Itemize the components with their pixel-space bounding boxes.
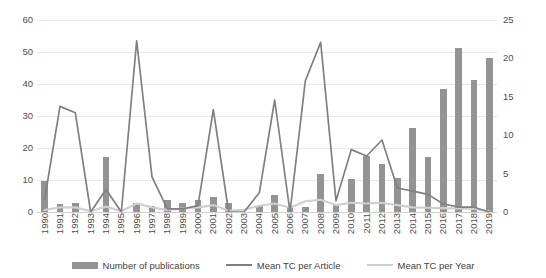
line-mean-tc-per-year <box>45 200 490 212</box>
legend-item-mean-tc-per-year: Mean TC per Year <box>367 260 475 271</box>
x-axis-label-2005: 2005 <box>270 213 280 234</box>
left-axis-tick-label: 40 <box>5 79 33 89</box>
x-axis-label-2012: 2012 <box>377 213 387 234</box>
x-axis-label-2008: 2008 <box>316 213 326 234</box>
legend-label-mean-tc-per-article: Mean TC per Article <box>257 260 341 271</box>
right-axis-tick-label: 0 <box>503 207 531 217</box>
left-axis-tick-label: 60 <box>5 15 33 25</box>
x-axis-label-2006: 2006 <box>285 213 295 234</box>
x-axis-label-2018: 2018 <box>469 213 479 234</box>
x-axis-label-1991: 1991 <box>55 213 65 234</box>
plot-area <box>37 20 497 212</box>
x-axis-label-2011: 2011 <box>362 213 372 233</box>
x-axis-label-2001: 2001 <box>208 213 218 234</box>
x-axis-label-1994: 1994 <box>101 213 111 234</box>
x-axis-label-2000: 2000 <box>193 213 203 234</box>
x-axis-label-2016: 2016 <box>438 213 448 234</box>
left-axis-tick-label: 20 <box>5 143 33 153</box>
x-axis-label-1998: 1998 <box>162 213 172 234</box>
x-axis-label-2002: 2002 <box>224 213 234 234</box>
left-axis-tick-label: 50 <box>5 47 33 57</box>
right-axis-tick-label: 5 <box>503 169 531 179</box>
x-axis-label-1993: 1993 <box>86 213 96 234</box>
x-axis-label-2007: 2007 <box>300 213 310 234</box>
x-axis-label-2019: 2019 <box>484 213 494 234</box>
line-series-layer <box>37 20 497 212</box>
x-axis-label-2015: 2015 <box>423 213 433 234</box>
x-axis-label-2013: 2013 <box>392 213 402 234</box>
line-swatch-light-icon <box>367 264 393 266</box>
x-axis-label-1996: 1996 <box>132 213 142 234</box>
left-y-axis: 6050403020100 <box>0 20 33 212</box>
x-axis-label-2003: 2003 <box>239 213 249 234</box>
x-axis-label-1995: 1995 <box>116 213 126 234</box>
x-axis-label-1999: 1999 <box>178 213 188 234</box>
legend-label-number-of-publications: Number of publications <box>103 260 200 271</box>
right-axis-tick-label: 20 <box>503 54 531 64</box>
x-axis-year-labels: 1990199119921993199419951996199719981999… <box>37 213 497 251</box>
legend-label-mean-tc-per-year: Mean TC per Year <box>398 260 475 271</box>
left-axis-tick-label: 10 <box>5 175 33 185</box>
right-axis-tick-label: 10 <box>503 130 531 140</box>
line-mean-tc-per-article <box>45 41 490 212</box>
right-axis-tick-label: 15 <box>503 92 531 102</box>
x-axis-label-2010: 2010 <box>346 213 356 234</box>
publication-citation-chart: 6050403020100 2520151050 199019911992199… <box>0 0 546 278</box>
bar-swatch-icon <box>72 262 98 269</box>
x-axis-label-1997: 1997 <box>147 213 157 234</box>
legend-item-mean-tc-per-article: Mean TC per Article <box>226 260 341 271</box>
right-y-axis: 2520151050 <box>503 20 543 212</box>
x-axis-label-2004: 2004 <box>254 213 264 234</box>
legend-item-number-of-publications: Number of publications <box>72 260 200 271</box>
left-axis-tick-label: 30 <box>5 111 33 121</box>
line-swatch-dark-icon <box>226 264 252 266</box>
x-axis-label-2017: 2017 <box>454 213 464 234</box>
right-axis-tick-label: 25 <box>503 15 531 25</box>
x-axis-label-2014: 2014 <box>408 213 418 234</box>
left-axis-tick-label: 0 <box>5 207 33 217</box>
chart-legend: Number of publications Mean TC per Artic… <box>0 256 546 274</box>
x-axis-label-2009: 2009 <box>331 213 341 234</box>
x-axis-label-1992: 1992 <box>70 213 80 234</box>
x-axis-label-1990: 1990 <box>40 213 50 234</box>
